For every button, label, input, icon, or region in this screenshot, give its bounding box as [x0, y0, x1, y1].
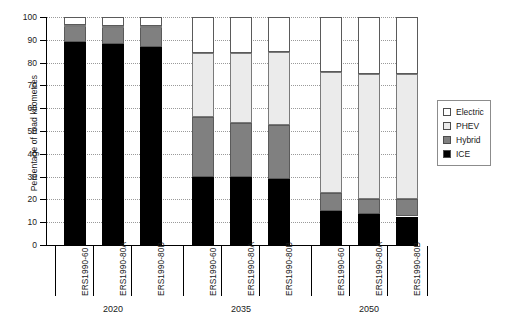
category-label: ERS1990-60 — [336, 238, 346, 296]
x-axis-tick — [427, 246, 428, 296]
y-axis-tick: 50 — [40, 131, 46, 132]
stacked-bar — [358, 17, 380, 245]
y-axis-tick: 60 — [40, 108, 46, 109]
y-axis-tick-label: 80 — [28, 58, 37, 68]
bar-segment-hybrid — [102, 27, 124, 44]
bar-segment-phev — [192, 53, 214, 117]
x-axis-tick — [93, 246, 94, 296]
bar-segment-electric — [192, 17, 214, 53]
category-label: ERS1990-80A — [374, 238, 384, 296]
bar-segment-hybrid — [320, 193, 342, 211]
x-axis-tick — [55, 246, 56, 296]
group-label: 2050 — [339, 304, 399, 314]
legend-item: Hybrid — [443, 133, 484, 147]
stacked-bar — [268, 17, 290, 245]
bar-segment-ice — [268, 179, 290, 245]
stacked-bar — [320, 17, 342, 245]
category-label: ERS1990-80B — [284, 238, 294, 296]
bar-segment-electric — [320, 17, 342, 72]
x-axis-tick — [131, 246, 132, 296]
stacked-bar — [230, 17, 252, 245]
bar-segment-electric — [102, 17, 124, 26]
legend-item: PHEV — [443, 119, 484, 133]
y-axis-tick: 80 — [40, 63, 46, 64]
y-axis-tick-label: 50 — [28, 126, 37, 136]
y-axis-tick-label: 30 — [28, 172, 37, 182]
bar-segment-electric — [140, 17, 162, 26]
y-axis-tick-label: 40 — [28, 149, 37, 159]
bar-segment-hybrid — [230, 123, 252, 177]
bar-segment-phev — [64, 25, 86, 27]
y-axis-tick-label: 60 — [28, 103, 37, 113]
stacked-bar — [140, 17, 162, 245]
bar-segment-ice — [192, 177, 214, 245]
bar-segment-ice — [64, 42, 86, 245]
x-axis-tick — [259, 246, 260, 296]
bar-segment-electric — [64, 17, 86, 25]
y-axis-tick: 10 — [40, 222, 46, 223]
y-axis-tick: 40 — [40, 154, 46, 155]
x-axis-tick — [311, 246, 312, 296]
stacked-bar-chart: Percentage of road kilometres 0102030405… — [0, 0, 513, 330]
legend-label: ICE — [456, 149, 470, 159]
category-label: ERS1990-60 — [208, 238, 218, 296]
bar-segment-phev — [396, 74, 418, 199]
y-axis-tick-label: 20 — [28, 194, 37, 204]
category-label: ERS1990-80A — [246, 238, 256, 296]
bar-segment-phev — [268, 52, 290, 125]
category-label: ERS1990-60 — [80, 238, 90, 296]
legend-label: PHEV — [456, 121, 479, 131]
y-axis-tick-label: 10 — [28, 217, 37, 227]
legend-swatch — [443, 122, 451, 130]
bar-segment-phev — [102, 26, 124, 28]
bar-segment-hybrid — [64, 26, 86, 42]
y-axis-tick: 90 — [40, 40, 46, 41]
legend: ElectricPHEVHybridICE — [437, 100, 491, 166]
x-axis-line — [46, 245, 418, 246]
bar-segment-ice — [140, 47, 162, 245]
bar-segment-electric — [358, 17, 380, 74]
category-label: ERS1990-80B — [412, 238, 422, 296]
bar-segment-hybrid — [396, 199, 418, 216]
y-axis-tick-label: 90 — [28, 35, 37, 45]
y-axis-tick-label: 70 — [28, 80, 37, 90]
bar-segment-ice — [102, 44, 124, 245]
y-axis-tick: 100 — [40, 17, 46, 18]
bar-segment-electric — [268, 17, 290, 52]
legend-swatch — [443, 150, 451, 158]
group-label: 2020 — [83, 304, 143, 314]
legend-label: Electric — [456, 107, 484, 117]
x-axis-tick — [183, 246, 184, 296]
group-label: 2035 — [211, 304, 271, 314]
bar-segment-hybrid — [268, 125, 290, 179]
bar-segment-phev — [358, 74, 380, 199]
y-axis-tick-label: 100 — [23, 12, 37, 22]
stacked-bar — [396, 17, 418, 245]
x-axis-tick — [349, 246, 350, 296]
bar-segment-ice — [230, 177, 252, 245]
stacked-bar — [102, 17, 124, 245]
x-axis-tick — [387, 246, 388, 296]
bar-segment-phev — [320, 72, 342, 193]
category-label: ERS1990-80B — [156, 238, 166, 296]
legend-swatch — [443, 136, 451, 144]
category-label: ERS1990-80A — [118, 238, 128, 296]
plot-area: 0102030405060708090100 — [46, 17, 418, 246]
y-axis-tick: 30 — [40, 177, 46, 178]
y-axis-tick: 20 — [40, 199, 46, 200]
bar-segment-hybrid — [140, 27, 162, 46]
legend-swatch — [443, 108, 451, 116]
x-axis-tick — [221, 246, 222, 296]
bar-segment-phev — [140, 26, 162, 28]
bar-segment-electric — [230, 17, 252, 53]
legend-item: Electric — [443, 105, 484, 119]
y-axis-tick: 70 — [40, 85, 46, 86]
bar-segment-electric — [396, 17, 418, 74]
legend-item: ICE — [443, 147, 484, 161]
y-axis-tick-label: 0 — [32, 240, 37, 250]
bar-segment-hybrid — [358, 199, 380, 214]
stacked-bar — [64, 17, 86, 245]
stacked-bar — [192, 17, 214, 245]
legend-label: Hybrid — [456, 135, 481, 145]
y-axis-tick: 0 — [40, 245, 46, 246]
